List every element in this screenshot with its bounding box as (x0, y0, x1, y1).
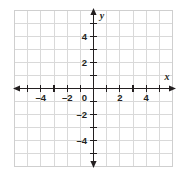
y-tick-label-pos4: 4 (82, 31, 88, 42)
x-tick-label-neg2: –2 (62, 92, 73, 103)
coordinate-plane-figure: –4 –2 2 4 4 2 –2 –4 0 x y (0, 0, 187, 175)
origin-label: 0 (82, 92, 87, 103)
x-axis-name-label: x (164, 71, 170, 82)
y-tick-label-pos2: 2 (82, 57, 87, 68)
x-tick-label-neg4: –4 (36, 92, 47, 103)
y-tick-label-neg2: –2 (76, 109, 87, 120)
y-tick-label-neg4: –4 (76, 135, 87, 146)
y-axis-name-label: y (99, 10, 105, 21)
x-tick-label-pos2: 2 (117, 92, 122, 103)
cartesian-grid-svg: –4 –2 2 4 4 2 –2 –4 0 x y (0, 0, 187, 175)
x-tick-label-pos4: 4 (144, 92, 150, 103)
